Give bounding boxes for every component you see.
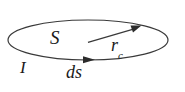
physics-figure: S I ds rc: [0, 0, 185, 92]
radius-vector-arrowhead-icon: [131, 26, 142, 33]
loop-group: [8, 20, 168, 60]
line-element-label-ds: ds: [66, 63, 82, 81]
radius-symbol: r: [111, 35, 118, 55]
radius-label-rc: rc: [111, 36, 123, 58]
current-direction-arrowhead-icon: [83, 56, 95, 63]
current-direction-arrowhead-group: [83, 56, 95, 63]
radius-subscript: c: [118, 49, 123, 61]
current-label-I: I: [20, 59, 26, 76]
figure-canvas: [0, 0, 185, 92]
surface-label-S: S: [50, 28, 60, 47]
ellipse-loop: [8, 20, 168, 60]
